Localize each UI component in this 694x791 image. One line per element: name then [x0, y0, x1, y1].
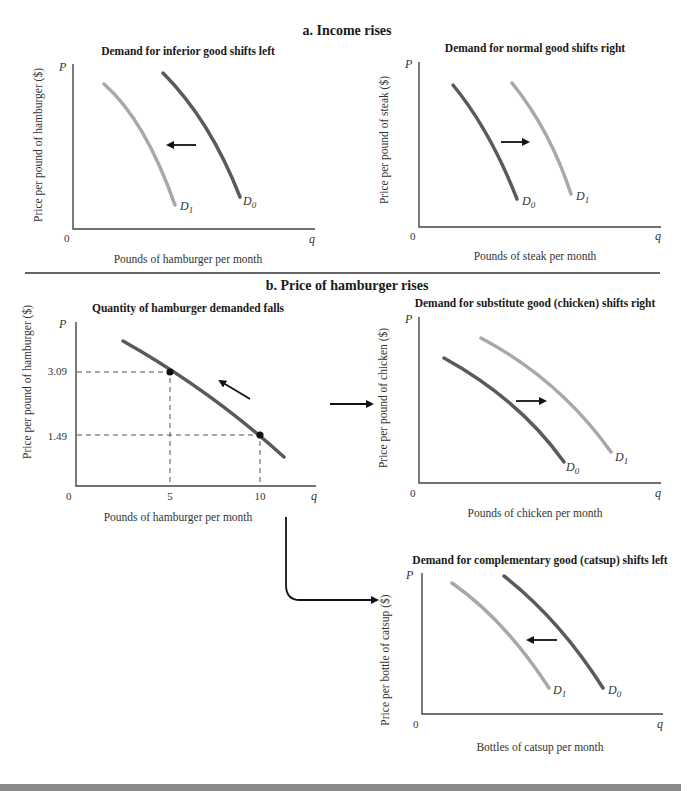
origin-label: 0 — [66, 490, 72, 502]
q-axis-label: q — [309, 232, 315, 246]
section-a-title: a. Income rises — [302, 23, 392, 38]
axes — [76, 322, 316, 486]
d0-label: D0 — [242, 194, 257, 210]
d0-label: D0 — [607, 683, 622, 699]
y-axis-label: Price per pound of hamburger ($) — [21, 305, 34, 459]
d0-label: D0 — [521, 194, 536, 210]
demand-curve-d1 — [104, 84, 175, 205]
origin-label: 0 — [410, 487, 416, 499]
q-axis-label: q — [655, 486, 661, 500]
demand-curve-d0 — [444, 358, 564, 462]
chart-hamburger-quantity: Quantity of hamburger demanded falls P P… — [21, 302, 317, 524]
p-axis-label: P — [404, 312, 413, 326]
demand-curve-d1 — [512, 83, 571, 194]
p-axis-label: P — [58, 317, 67, 331]
d1-label: D1 — [552, 683, 566, 699]
q-axis-label: q — [655, 229, 661, 243]
x-tick-5: 5 — [167, 490, 173, 502]
y-axis-label: Price per pound of steak ($) — [378, 76, 391, 204]
chart-inferior-good: Demand for inferior good shifts left P P… — [32, 45, 315, 266]
p-axis-label: P — [405, 568, 414, 582]
section-b-title: b. Price of hamburger rises — [266, 278, 429, 293]
d1-label: D1 — [575, 189, 589, 205]
x-axis-label: Pounds of hamburger per month — [104, 511, 253, 524]
q-axis-label: q — [311, 489, 317, 503]
guide-lines-point-b — [77, 435, 260, 486]
demand-curve — [123, 341, 284, 457]
y-axis-label: Price per bottle of catsup ($) — [379, 594, 392, 725]
connector-arrow-to-catsup-icon — [286, 517, 377, 600]
x-axis-label: Pounds of chicken per month — [468, 507, 603, 520]
chart-substitute-chicken: Demand for substitute good (chicken) shi… — [377, 297, 661, 520]
y-axis-label: Price per pound of chicken ($) — [377, 328, 390, 468]
chart-title: Demand for complementary good (catsup) s… — [412, 554, 667, 567]
guide-lines-point-a — [77, 372, 170, 486]
figure: a. Income rises Demand for inferior good… — [0, 0, 694, 791]
chart-title: Demand for inferior good shifts left — [101, 45, 275, 58]
x-axis-label: Pounds of hamburger per month — [114, 253, 263, 266]
origin-label: 0 — [64, 232, 70, 244]
chart-normal-good: Demand for normal good shifts right P Pr… — [378, 42, 661, 263]
axes — [422, 573, 663, 714]
chart-title: Quantity of hamburger demanded falls — [92, 302, 285, 315]
q-axis-label: q — [657, 717, 663, 731]
y-tick-1-49: 1.49 — [48, 430, 68, 442]
chart-complement-catsup: Demand for complementary good (catsup) s… — [379, 554, 668, 754]
y-tick-3-09: 3.09 — [48, 365, 68, 377]
movement-along-curve-arrow-icon — [220, 381, 250, 399]
origin-label: 0 — [413, 718, 419, 730]
x-axis-label: Bottles of catsup per month — [476, 741, 603, 754]
chart-title: Demand for normal good shifts right — [445, 42, 625, 55]
p-axis-label: P — [404, 57, 413, 71]
chart-title: Demand for substitute good (chicken) shi… — [415, 297, 656, 310]
y-axis-label: Price per pound of hamburger ($) — [32, 68, 45, 222]
d1-label: D1 — [614, 450, 628, 466]
point-5-3-09 — [166, 368, 173, 375]
demand-curve-d0 — [163, 73, 240, 197]
point-10-1-49 — [256, 431, 263, 438]
origin-label: 0 — [410, 230, 416, 242]
x-tick-10: 10 — [255, 490, 267, 502]
demand-curve-d1 — [452, 583, 549, 688]
x-axis-label: Pounds of steak per month — [474, 250, 597, 263]
d1-label: D1 — [179, 199, 193, 215]
p-axis-label: P — [58, 60, 67, 74]
d0-label: D0 — [565, 460, 580, 476]
demand-curve-d0 — [504, 576, 603, 688]
bottom-bar — [0, 784, 681, 791]
